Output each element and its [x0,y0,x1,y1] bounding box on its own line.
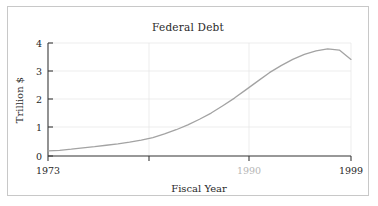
y-axis-title: Trillion $ [14,77,25,123]
y-tick-label: 0 [36,151,42,162]
y-tick-label: 4 [36,38,42,49]
horizontal-gridlines [48,43,351,156]
x-tick-label-middle: 1990 [237,165,261,176]
y-tick-label: 3 [36,66,42,77]
y-tick-label: 1 [36,122,42,133]
y-tick-label: 2 [36,94,42,105]
x-tick-labels: 1973 1990 1999 [36,165,363,176]
x-axis [48,156,351,161]
x-tick-label-start: 1973 [36,165,60,176]
data-series-federal-debt [48,49,351,151]
chart-plot-area: 4 3 2 1 0 1973 1990 1999 Trillion $ Fisc… [8,7,368,195]
figure-frame: Federal Debt [7,6,369,196]
x-tick-label-end: 1999 [339,165,363,176]
x-axis-title: Fiscal Year [171,183,227,194]
y-tick-labels: 4 3 2 1 0 [36,38,42,162]
y-axis [48,43,53,156]
vertical-gridlines [149,43,351,156]
